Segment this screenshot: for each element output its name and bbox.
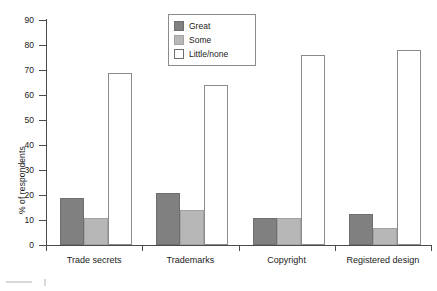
- y-axis-tick-label: 80: [8, 41, 34, 50]
- x-axis-label-registered-design: Registered design: [335, 255, 431, 265]
- bar-some-registered-design: [373, 228, 397, 246]
- x-axis-separator-tick: [142, 245, 143, 251]
- bar-some-copyright: [277, 218, 301, 246]
- y-axis-tick-label: 70: [8, 66, 34, 75]
- y-axis-tick: [39, 20, 46, 21]
- y-axis-tick-label: 40: [8, 141, 34, 150]
- scan-artifact: [6, 281, 32, 283]
- y-axis-tick: [39, 95, 46, 96]
- x-axis-label-trade-secrets: Trade secrets: [46, 255, 142, 265]
- y-axis-tick: [39, 195, 46, 196]
- y-axis-tick-label: 0: [8, 241, 34, 250]
- legend-item-some: Some: [174, 33, 250, 47]
- y-axis-tick: [39, 245, 46, 246]
- y-axis-tick: [39, 220, 46, 221]
- x-axis-separator-tick: [46, 245, 47, 251]
- bar-some-trademarks: [180, 210, 204, 245]
- scan-artifact: [44, 279, 46, 286]
- y-axis-tick: [39, 170, 46, 171]
- y-axis-tick: [39, 45, 46, 46]
- bar-little-none-copyright: [301, 55, 325, 245]
- y-axis-tick: [39, 145, 46, 146]
- legend-label-some: Some: [189, 36, 211, 45]
- y-axis-title-text: % of respondents: [17, 146, 27, 214]
- x-axis-separator-tick: [431, 245, 432, 251]
- y-axis-tick-label: 90: [8, 16, 34, 25]
- bar-little-none-trade-secrets: [108, 73, 132, 246]
- y-axis-tick: [39, 70, 46, 71]
- y-axis-tick-label: 10: [8, 216, 34, 225]
- bar-chart: % of respondents 0102030405060708090 Tra…: [0, 0, 437, 291]
- y-axis-tick-label: 20: [8, 191, 34, 200]
- x-axis-label-trademarks: Trademarks: [142, 255, 238, 265]
- bar-little-none-registered-design: [397, 50, 421, 245]
- y-axis-tick-label: 30: [8, 166, 34, 175]
- bar-great-trade-secrets: [60, 198, 84, 246]
- x-axis-separator-tick: [335, 245, 336, 251]
- y-axis-tick: [39, 120, 46, 121]
- x-axis-separator-tick: [239, 245, 240, 251]
- x-axis-label-copyright: Copyright: [239, 255, 335, 265]
- white-swatch-icon: [174, 49, 184, 59]
- light-gray-swatch-icon: [174, 35, 184, 45]
- legend-item-little-none: Little/none: [174, 47, 250, 61]
- y-axis-tick-label: 60: [8, 91, 34, 100]
- y-axis-tick-label: 50: [8, 116, 34, 125]
- bar-great-registered-design: [349, 214, 373, 245]
- bar-great-copyright: [253, 218, 277, 246]
- chart-legend: Great Some Little/none: [168, 14, 256, 66]
- bar-great-trademarks: [156, 193, 180, 246]
- legend-item-great: Great: [174, 19, 250, 33]
- legend-label-great: Great: [189, 22, 210, 31]
- legend-label-little-none: Little/none: [189, 50, 228, 59]
- dark-gray-swatch-icon: [174, 21, 184, 31]
- bar-some-trade-secrets: [84, 218, 108, 246]
- bar-little-none-trademarks: [204, 85, 228, 245]
